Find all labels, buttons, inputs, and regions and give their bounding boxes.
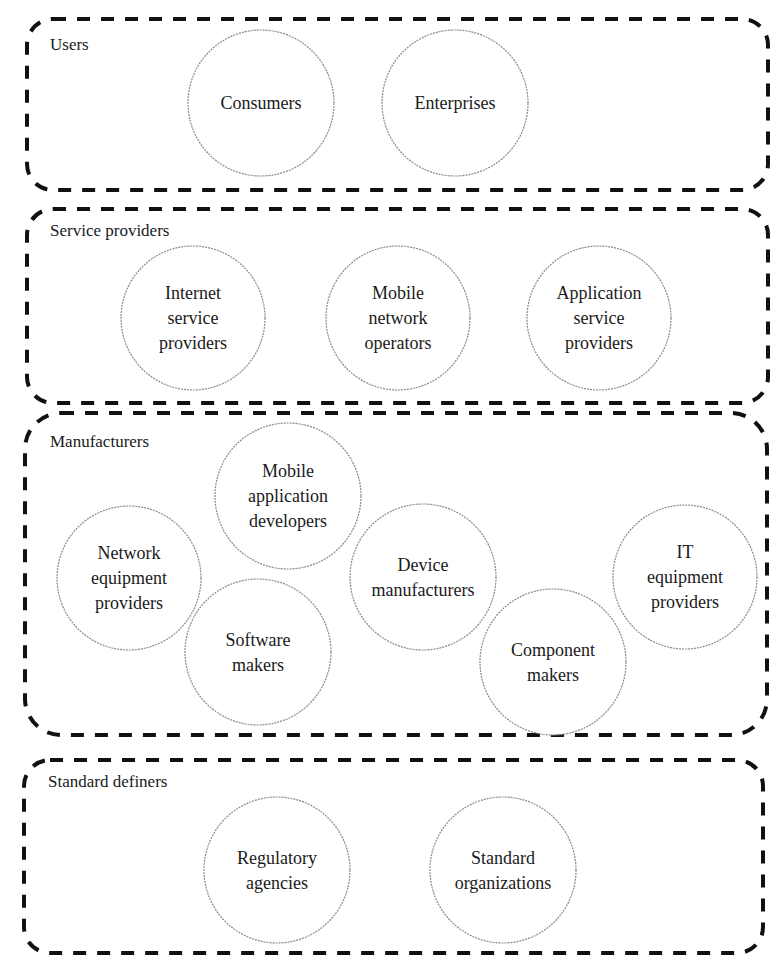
group-label: Users xyxy=(50,35,89,54)
node-network-equipment-providers: Networkequipmentproviders xyxy=(57,506,201,650)
node-label-line: Mobile xyxy=(262,461,314,481)
node-circle xyxy=(185,579,331,725)
node-label-line: agencies xyxy=(246,873,308,893)
group-label: Standard definers xyxy=(48,772,167,791)
node-label-line: providers xyxy=(651,592,719,612)
node-label-line: equipment xyxy=(647,567,723,587)
node-label-line: Software xyxy=(226,630,291,650)
node-circle xyxy=(480,589,626,735)
node-standard-organizations: Standardorganizations xyxy=(430,797,576,943)
group-label: Service providers xyxy=(50,221,169,240)
node-circle xyxy=(430,797,576,943)
node-label-line: providers xyxy=(565,333,633,353)
node-mobile-application-developers: Mobileapplicationdevelopers xyxy=(215,423,361,569)
node-label-line: network xyxy=(369,308,428,328)
node-label-line: makers xyxy=(232,655,284,675)
node-label-line: Enterprises xyxy=(415,93,496,113)
node-regulatory-agencies: Regulatoryagencies xyxy=(204,797,350,943)
node-consumers: Consumers xyxy=(188,30,334,176)
node-label-line: Component xyxy=(511,640,595,660)
group-standard-definers: Standard definersRegulatoryagenciesStand… xyxy=(24,760,763,953)
node-component-makers: Componentmakers xyxy=(480,589,626,735)
node-label-line: equipment xyxy=(91,568,167,588)
node-label-line: Network xyxy=(98,543,161,563)
node-label-line: application xyxy=(248,486,328,506)
node-label-line: operators xyxy=(365,333,432,353)
node-application-service-providers: Applicationserviceproviders xyxy=(527,246,671,390)
node-internet-service-providers: Internetserviceproviders xyxy=(121,246,265,390)
node-label-line: service xyxy=(574,308,625,328)
node-device-manufacturers: Devicemanufacturers xyxy=(350,504,496,650)
node-it-equipment-providers: ITequipmentproviders xyxy=(613,505,757,649)
group-users: UsersConsumersEnterprises xyxy=(27,19,768,190)
node-label-line: providers xyxy=(95,593,163,613)
group-service-providers: Service providersInternetserviceprovider… xyxy=(27,209,768,403)
stakeholder-diagram: UsersConsumersEnterprisesService provide… xyxy=(0,0,783,973)
node-label-line: organizations xyxy=(455,873,552,893)
node-enterprises: Enterprises xyxy=(382,30,528,176)
node-label-line: manufacturers xyxy=(372,580,475,600)
node-label-line: Regulatory xyxy=(237,848,317,868)
node-label-line: IT xyxy=(677,542,694,562)
node-software-makers: Softwaremakers xyxy=(185,579,331,725)
node-label-line: Consumers xyxy=(221,93,302,113)
node-label-line: Application xyxy=(557,283,642,303)
group-manufacturers: ManufacturersMobileapplicationdevelopers… xyxy=(25,413,767,735)
node-label-line: Device xyxy=(398,555,449,575)
node-label-line: service xyxy=(168,308,219,328)
node-label-line: providers xyxy=(159,333,227,353)
node-circle xyxy=(350,504,496,650)
group-label: Manufacturers xyxy=(50,432,149,451)
node-mobile-network-operators: Mobilenetworkoperators xyxy=(326,246,470,390)
node-label-line: Mobile xyxy=(372,283,424,303)
node-label-line: Standard xyxy=(471,848,535,868)
node-circle xyxy=(204,797,350,943)
node-label-line: makers xyxy=(527,665,579,685)
node-label-line: Internet xyxy=(165,283,221,303)
node-label-line: developers xyxy=(249,511,327,531)
